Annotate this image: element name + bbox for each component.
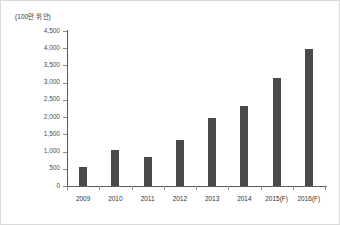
y-axis-tick: 2,000 (1, 117, 67, 118)
y-axis-tick: 3,000 (1, 83, 67, 84)
x-axis-tick-mark (164, 186, 165, 190)
y-axis-tick: 0 (1, 186, 67, 187)
bar (305, 49, 313, 186)
y-axis-tick: 4,500 (1, 31, 67, 32)
y-axis-tick-label: 500 (49, 164, 60, 171)
y-axis-tick-label: 2,500 (44, 95, 60, 102)
bar (79, 167, 87, 186)
x-axis-tick-label: 2014 (237, 195, 251, 202)
x-axis-tick-mark (132, 186, 133, 190)
chart-figure: (100만 위안) 05001,0001,5002,0002,5003,0003… (0, 0, 340, 225)
y-axis-tick-label: 4,000 (44, 44, 60, 51)
x-axis-tick-mark (261, 186, 262, 190)
x-axis-tick-mark (196, 186, 197, 190)
x-axis-tick-label: 2013 (205, 195, 219, 202)
x-axis-tick-label: 2015(F) (265, 195, 288, 202)
y-axis-tick: 1,500 (1, 134, 67, 135)
bar (240, 106, 248, 186)
y-axis-tick-label: 3,000 (44, 78, 60, 85)
plot-area (67, 31, 325, 186)
y-axis-tick: 2,500 (1, 100, 67, 101)
y-axis-tick: 3,500 (1, 65, 67, 66)
y-axis-tick-label: 4,500 (44, 27, 60, 34)
x-axis-tick-label: 2010 (108, 195, 122, 202)
bar (111, 150, 119, 187)
bar (273, 78, 281, 186)
x-axis-line (67, 186, 327, 187)
bar (208, 118, 216, 186)
bar (144, 157, 152, 186)
x-axis-tick-mark (99, 186, 100, 190)
x-axis-tick-mark (293, 186, 294, 190)
y-axis-tick-label: 3,500 (44, 61, 60, 68)
x-axis-tick-mark (228, 186, 229, 190)
x-axis-tick-label: 2011 (141, 195, 155, 202)
y-axis-unit-label: (100만 위안) (15, 11, 51, 21)
x-axis-tick-label: 2012 (173, 195, 187, 202)
y-axis-tick: 1,000 (1, 152, 67, 153)
y-axis-tick: 500 (1, 169, 67, 170)
y-axis-tick: 4,000 (1, 48, 67, 49)
y-axis-tick-label: 1,500 (44, 130, 60, 137)
y-axis-tick-label: 1,000 (44, 147, 60, 154)
y-axis-tick-label: 0 (56, 182, 60, 189)
x-axis-tick-mark (67, 186, 68, 190)
bar (176, 140, 184, 187)
y-axis-tick-label: 2,000 (44, 113, 60, 120)
x-axis-tick-label: 2016(F) (297, 195, 320, 202)
x-axis-tick-mark (325, 186, 326, 190)
x-axis-tick-label: 2009 (76, 195, 90, 202)
